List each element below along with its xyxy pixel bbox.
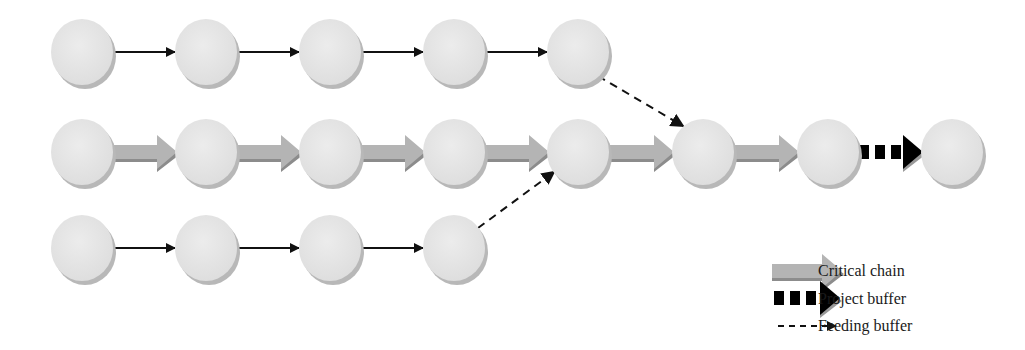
- activity-node: [175, 119, 240, 189]
- critical-chain-arrow: [111, 135, 179, 172]
- activity-node: [51, 119, 116, 189]
- activity-node: [921, 119, 986, 189]
- activity-node: [797, 119, 862, 189]
- project-buffer-arrow: [859, 135, 925, 172]
- legend-project-buffer-label: Project buffer: [818, 290, 906, 308]
- critical-chain-arrow: [359, 135, 427, 172]
- activity-node: [547, 19, 612, 89]
- activity-node: [299, 119, 364, 189]
- activity-node: [547, 119, 612, 189]
- activity-node: [423, 19, 488, 89]
- legend-feeding-buffer-label: Feeding buffer: [818, 317, 912, 335]
- legend-critical-chain-label: Critical chain: [818, 262, 905, 280]
- critical-chain-arrow: [607, 135, 676, 172]
- critical-chain-arrow: [732, 135, 801, 172]
- activity-node: [51, 215, 116, 285]
- activity-node: [175, 19, 240, 89]
- activity-node: [299, 19, 364, 89]
- activity-node: [175, 215, 240, 285]
- activity-node: [423, 119, 488, 189]
- critical-chain-arrow: [483, 135, 551, 172]
- activity-node: [299, 215, 364, 285]
- activity-node: [51, 19, 116, 89]
- activity-node: [423, 215, 488, 285]
- critical-chain-arrow: [235, 135, 303, 172]
- feeding-buffer-arrow-top: [598, 76, 683, 126]
- activity-node: [672, 119, 737, 189]
- feeding-buffer-arrow-bottom: [478, 172, 554, 228]
